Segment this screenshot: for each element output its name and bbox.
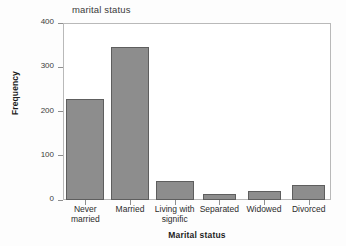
- chart-title: marital status: [72, 4, 131, 15]
- y-tick-label: 200: [18, 106, 54, 115]
- y-axis-label: Frequency: [10, 65, 20, 121]
- y-tick-label: 100: [18, 150, 54, 159]
- bar: [248, 191, 281, 200]
- y-tick-label: 0: [18, 194, 54, 203]
- x-axis-label: Marital status: [63, 230, 331, 240]
- bar: [66, 99, 104, 200]
- bar: [111, 47, 149, 200]
- bar-chart: marital status Frequency 0100200300400 N…: [0, 0, 346, 246]
- bars-group: [63, 23, 331, 200]
- x-tick-label: Divorced: [276, 204, 341, 214]
- bar: [156, 181, 194, 200]
- y-tick-label: 400: [18, 17, 54, 26]
- bar: [292, 185, 325, 200]
- y-tick-label: 300: [18, 61, 54, 70]
